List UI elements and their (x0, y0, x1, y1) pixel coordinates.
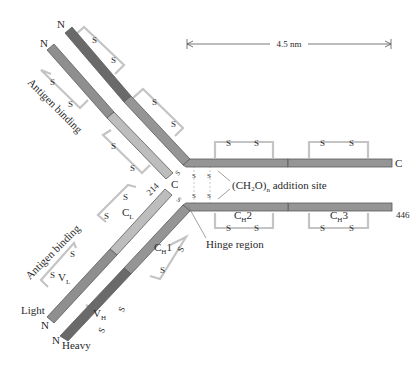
domain-label-vh: VH (93, 307, 106, 322)
svg-text:S: S (111, 55, 116, 65)
svg-text:S: S (152, 97, 157, 107)
hinge-region-label: Hinge region (206, 238, 264, 250)
svg-text:S: S (160, 265, 165, 275)
svg-text:S: S (123, 192, 128, 202)
carbohydrate-label: (CH₂O)n addition site (232, 179, 327, 194)
bottom-light-chain (47, 189, 172, 323)
svg-text:S: S (92, 35, 97, 45)
svg-text:S: S (226, 223, 231, 233)
top-cl-domain (107, 112, 173, 179)
svg-text:S: S (50, 77, 55, 87)
svg-text:S: S (116, 305, 127, 314)
svg-text:S: S (192, 192, 196, 200)
bottom-ch3-domain (288, 203, 392, 211)
svg-text:S: S (320, 223, 325, 233)
top-ch3-domain (288, 159, 392, 167)
svg-text:VH: VH (93, 307, 106, 322)
scale-bar-label: 4.5 nm (276, 39, 301, 49)
svg-text:S: S (96, 326, 107, 335)
svg-text:S: S (130, 163, 135, 173)
top-vh-domain (65, 27, 131, 102)
svg-text:S: S (70, 249, 75, 259)
svg-text:S: S (320, 138, 325, 148)
top-light-n-terminus: N (40, 37, 48, 49)
svg-text:CL: CL (122, 206, 134, 221)
svg-text:S: S (174, 169, 182, 177)
svg-text:S: S (68, 99, 73, 109)
svg-text:S: S (175, 196, 183, 204)
residue-446-label: 446 (396, 210, 410, 220)
svg-text:S: S (207, 192, 211, 200)
svg-text:S: S (207, 172, 211, 180)
top-heavy-c-terminus: C (395, 157, 402, 169)
svg-text:S: S (192, 172, 196, 180)
svg-text:CH1: CH1 (154, 241, 172, 256)
top-heavy-n-terminus: N (57, 18, 65, 30)
svg-text:S: S (226, 138, 231, 148)
svg-text:VL: VL (58, 271, 70, 286)
antibody-structure-diagram: 4.5 nm (0, 0, 419, 369)
carbohydrate-site-annotation: (CH₂O)n addition site (218, 171, 327, 199)
bottom-light-n-terminus: N (41, 319, 49, 331)
svg-text:S: S (111, 141, 116, 151)
svg-text:S: S (349, 138, 354, 148)
domain-label-ch1: CH1 (154, 241, 172, 256)
light-chain-label: Light (21, 304, 45, 316)
svg-text:S: S (254, 223, 259, 233)
svg-text:S: S (171, 119, 176, 129)
svg-text:S: S (349, 223, 354, 233)
svg-text:S: S (50, 270, 55, 280)
residue-214-label: 214 (144, 180, 161, 197)
svg-text:S: S (104, 211, 109, 221)
top-light-c-terminus: C (171, 178, 178, 190)
top-ch2-domain (183, 159, 288, 167)
bottom-cl-domain (110, 189, 172, 255)
svg-text:S: S (254, 138, 259, 148)
disulfide-brackets (41, 27, 368, 310)
domain-label-cl: CL (122, 206, 134, 221)
bottom-heavy-n-terminus: N (52, 334, 60, 346)
domain-label-vl: VL (58, 271, 70, 286)
scale-bar: 4.5 nm (187, 39, 391, 49)
heavy-chain-label: Heavy (62, 339, 91, 351)
